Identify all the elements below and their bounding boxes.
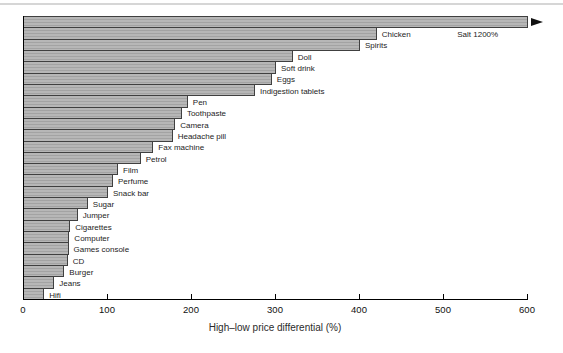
x-tick-600: [527, 294, 528, 299]
x-tick-label-400: 400: [351, 304, 367, 315]
bar-label-film: Film: [123, 166, 138, 175]
bar-label-fax-machine: Fax machine: [158, 143, 204, 152]
bar-chart: ChickenSpiritsDollSoft drinkEggsIndigest…: [0, 0, 563, 353]
bar-label-camera: Camera: [180, 121, 208, 130]
x-tick-100: [107, 294, 108, 299]
bar-label-soft-drink: Soft drink: [281, 64, 315, 73]
bar-label-doll: Doll: [298, 53, 312, 62]
bar-label-snack-bar: Snack bar: [113, 189, 149, 198]
bar-label-cd: CD: [73, 257, 85, 266]
x-axis-title: High–low price differential (%): [23, 322, 527, 333]
bar-label-jumper: Jumper: [83, 211, 110, 220]
bar-label-jeans: Jeans: [59, 279, 80, 288]
overflow-arrow-icon: [531, 18, 543, 26]
bar-label-indigestion-tablets: Indigestion tablets: [260, 87, 325, 96]
x-tick-label-600: 600: [519, 304, 535, 315]
bar-label-headache-pill: Headache pill: [178, 132, 226, 141]
annotation-salt-1200: Salt 1200%: [457, 30, 498, 39]
x-axis-line: [23, 299, 528, 300]
bar-label-pen: Pen: [193, 98, 207, 107]
bar-label-chicken: Chicken: [382, 30, 411, 39]
x-tick-label-100: 100: [99, 304, 115, 315]
x-tick-label-0: 0: [20, 304, 25, 315]
bar-label-toothpaste: Toothpaste: [187, 109, 226, 118]
bar-label-eggs: Eggs: [277, 75, 295, 84]
x-tick-300: [275, 294, 276, 299]
bar-label-burger: Burger: [69, 268, 93, 277]
x-tick-label-300: 300: [267, 304, 283, 315]
x-tick-label-500: 500: [435, 304, 451, 315]
bar-label-cigarettes: Cigarettes: [75, 223, 111, 232]
y-axis-line: [23, 16, 24, 299]
bar-label-games-console: Games console: [74, 245, 130, 254]
bar-label-spirits: Spirits: [365, 41, 387, 50]
bar-label-computer: Computer: [74, 234, 109, 243]
x-tick-label-200: 200: [183, 304, 199, 315]
bar-label-sugar: Sugar: [93, 200, 114, 209]
bar-label-perfume: Perfume: [118, 177, 148, 186]
bar-label-petrol: Petrol: [146, 155, 167, 164]
x-tick-200: [191, 294, 192, 299]
x-tick-400: [359, 294, 360, 299]
x-tick-500: [443, 294, 444, 299]
figure: ChickenSpiritsDollSoft drinkEggsIndigest…: [0, 0, 563, 353]
